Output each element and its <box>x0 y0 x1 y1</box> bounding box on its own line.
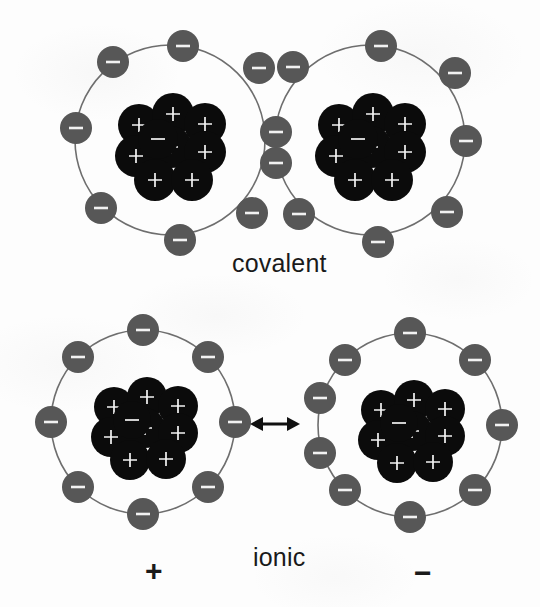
nucleus <box>315 93 426 201</box>
ionic-attraction-arrow <box>250 417 300 431</box>
electron <box>304 437 336 469</box>
proton <box>371 159 413 201</box>
anion-charge-label: − <box>414 556 432 590</box>
proton <box>134 159 176 201</box>
electron <box>243 52 275 84</box>
cation-charge-label: + <box>145 554 163 588</box>
proton <box>338 119 378 159</box>
proton <box>171 159 213 201</box>
electron <box>486 409 518 441</box>
electron <box>362 226 394 258</box>
electron <box>459 344 491 376</box>
ionic-atom-left <box>35 314 251 530</box>
proton <box>380 404 418 442</box>
electron <box>283 198 315 230</box>
nucleus <box>91 377 198 480</box>
electron <box>394 317 426 349</box>
proton <box>413 442 453 482</box>
covalent-label: covalent <box>232 249 327 278</box>
nucleus <box>358 380 465 483</box>
proton <box>138 119 178 159</box>
proton <box>110 440 150 480</box>
electron <box>164 224 196 256</box>
ionic-atom-right <box>304 317 518 533</box>
nucleus <box>115 93 226 201</box>
electron <box>127 314 159 346</box>
electron <box>450 125 482 157</box>
electron <box>365 30 397 62</box>
electron <box>35 406 67 438</box>
electron <box>97 46 129 78</box>
electron <box>167 30 199 62</box>
electron <box>459 474 491 506</box>
proton <box>146 439 186 479</box>
shared-electron <box>260 116 292 148</box>
electron <box>431 196 463 228</box>
ionic-panel <box>35 314 518 533</box>
electron <box>277 51 309 83</box>
covalent-atom-right <box>275 30 482 258</box>
electron <box>127 498 159 530</box>
electron <box>219 406 251 438</box>
bonding-diagram-figure: covalent ionic + − <box>0 0 540 607</box>
electron <box>85 192 117 224</box>
proton <box>113 401 151 439</box>
proton <box>334 159 376 201</box>
electron <box>439 57 471 89</box>
covalent-panel <box>60 30 482 258</box>
covalent-atom-left <box>60 30 275 256</box>
ionic-label: ionic <box>253 543 305 572</box>
proton <box>377 443 417 483</box>
electron <box>329 344 361 376</box>
electron <box>394 501 426 533</box>
electron <box>60 112 92 144</box>
electron <box>192 341 224 373</box>
electron <box>329 474 361 506</box>
shared-electron <box>260 147 292 179</box>
electron <box>192 471 224 503</box>
electron <box>304 382 336 414</box>
electron <box>62 471 94 503</box>
electron <box>62 341 94 373</box>
electron <box>236 197 268 229</box>
bonding-diagram-canvas <box>0 0 540 607</box>
